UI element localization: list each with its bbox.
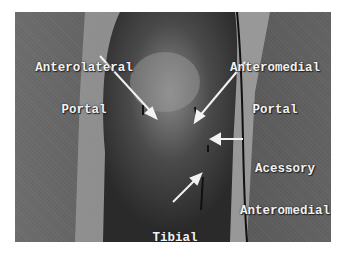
label-line: Anterolateral (19, 61, 149, 75)
knee-photo: Anterolateral Portal Anteromedial Portal… (15, 12, 331, 242)
label-line: Anteromedial (220, 61, 330, 75)
label-line: Anteromedial (220, 204, 331, 218)
label-tibial-incision: Tibial Incision (135, 203, 215, 242)
label-line: Tibial (135, 231, 215, 242)
label-line: Acessory (220, 162, 331, 176)
label-line: Portal (19, 103, 149, 117)
label-line: Portal (220, 103, 330, 117)
label-anterolateral-portal: Anterolateral Portal (19, 33, 149, 145)
label-anteromedial-portal: Anteromedial Portal (220, 33, 330, 145)
label-accessory-anteromedial-portal: Acessory Anteromedial Portal (220, 134, 331, 242)
